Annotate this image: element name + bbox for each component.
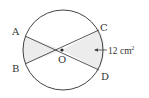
label-B: B <box>12 63 19 74</box>
label-C: C <box>100 22 108 33</box>
area-unit: cm <box>120 46 132 56</box>
label-D: D <box>101 71 109 82</box>
area-annotation: 12cm2 <box>108 45 135 56</box>
area-exponent: 2 <box>132 45 135 51</box>
circle-diagram: A B C D O 12cm2 <box>0 0 149 98</box>
label-A: A <box>11 26 20 37</box>
area-value: 12 <box>108 46 118 56</box>
center-point <box>60 48 63 51</box>
label-O: O <box>58 54 66 65</box>
